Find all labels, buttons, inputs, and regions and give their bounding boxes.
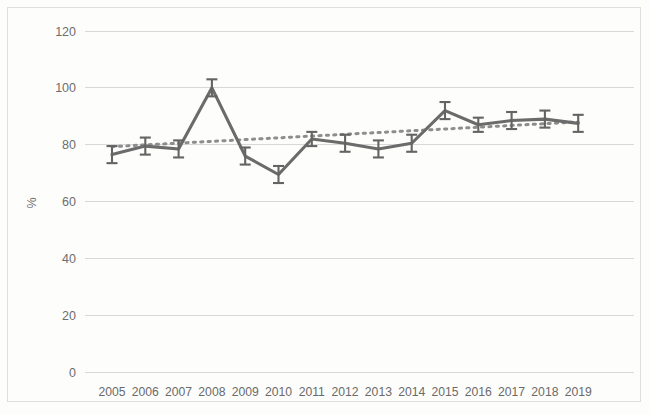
x-tick-label: 2015 (431, 385, 458, 399)
x-tick-label: 2005 (98, 385, 125, 399)
x-tick-label: 2019 (565, 385, 592, 399)
x-tick-label: 2006 (132, 385, 159, 399)
error-bars (107, 79, 584, 183)
x-tick-label: 2018 (531, 385, 558, 399)
gridlines (85, 31, 634, 372)
x-tick-label: 2009 (232, 385, 259, 399)
y-tick-label: 20 (62, 309, 76, 323)
y-tick-label: 120 (55, 25, 76, 39)
y-tick-label: 40 (62, 252, 76, 266)
x-tick-label: 2013 (365, 385, 392, 399)
y-tick-label: 100 (55, 81, 76, 95)
observed-value-series (112, 88, 578, 175)
x-tick-label: 2010 (265, 385, 292, 399)
y-tick-label: 80 (62, 138, 76, 152)
chart-figure: 120100806040200 200520062007200820092010… (0, 0, 649, 414)
x-tick-label: 2008 (198, 385, 225, 399)
y-axis-tick-labels: 120100806040200 (55, 25, 76, 380)
y-axis-title: % (25, 197, 39, 208)
x-tick-label: 2007 (165, 385, 192, 399)
y-tick-label: 0 (69, 366, 76, 380)
x-tick-label: 2016 (465, 385, 492, 399)
x-tick-label: 2011 (299, 385, 325, 399)
line-chart-plot: 120100806040200 200520062007200820092010… (0, 0, 649, 414)
x-axis-tick-labels: 2005200620072008200920102011201220132014… (98, 385, 592, 399)
x-tick-label: 2012 (332, 385, 359, 399)
x-tick-label: 2014 (398, 385, 425, 399)
y-tick-label: 60 (62, 195, 76, 209)
x-tick-label: 2017 (498, 385, 525, 399)
